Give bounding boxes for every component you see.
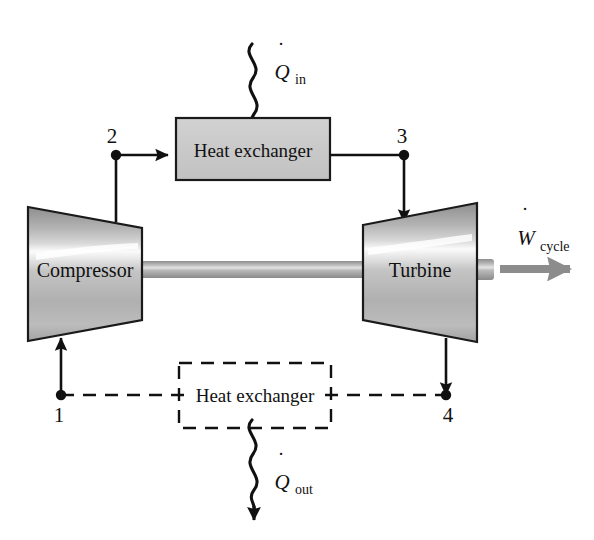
heat-exchanger-bottom-label: Heat exchanger <box>196 385 315 406</box>
work-cycle-dot: ˙ <box>522 203 529 227</box>
state-label-4: 4 <box>443 403 454 427</box>
heat-exchanger-bottom[interactable]: Heat exchanger <box>179 363 331 428</box>
turbine-label: Turbine <box>389 259 452 281</box>
heat-out-symbol: Q <box>274 470 289 494</box>
state-node-4[interactable] <box>441 390 451 400</box>
heat-exchanger-top-label: Heat exchanger <box>194 140 313 161</box>
heat-in-symbol: Q <box>274 60 289 84</box>
turbine[interactable]: Turbine <box>363 203 477 342</box>
heat-out-subscript: out <box>295 482 313 497</box>
state-label-2: 2 <box>107 124 118 148</box>
compressor-label: Compressor <box>37 259 134 282</box>
work-cycle-label: ˙ W cycle <box>517 203 569 254</box>
state-node-1[interactable] <box>56 390 66 400</box>
state-label-1: 1 <box>54 403 65 427</box>
state-node-2[interactable] <box>111 150 121 160</box>
heat-out-dot: ˙ <box>278 448 285 472</box>
state-node-3[interactable] <box>399 150 409 160</box>
brayton-cycle-diagram: Heat exchanger Compressor <box>0 0 594 540</box>
diagram-canvas: Heat exchanger Compressor <box>0 0 594 540</box>
work-cycle-symbol: W <box>517 226 537 250</box>
heat-out-flow-arrow <box>249 420 257 520</box>
heat-in-subscript: in <box>295 72 306 87</box>
heat-out-label: ˙ Q out <box>274 448 313 497</box>
compressor[interactable]: Compressor <box>28 207 142 341</box>
state-label-3: 3 <box>397 124 408 148</box>
work-cycle-subscript: cycle <box>540 239 570 254</box>
heat-in-label: ˙ Q in <box>274 38 305 87</box>
heat-exchanger-top[interactable]: Heat exchanger <box>176 118 330 180</box>
heat-in-dot: ˙ <box>278 38 285 62</box>
